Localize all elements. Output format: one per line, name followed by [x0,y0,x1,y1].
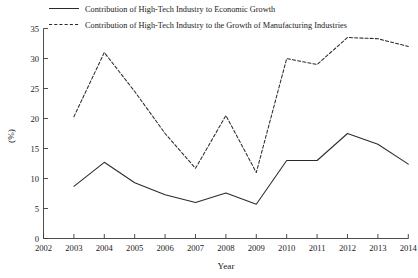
y-axis-tick-labels: 0 5 10 15 20 25 30 35 [30,24,39,244]
chart-figure: Contribution of High-Tech Industry to Ec… [0,0,418,278]
y-axis-title: (%) [6,129,16,143]
x-tick-label: 2010 [278,243,295,253]
x-tick-label: 2002 [35,243,52,253]
x-tick-label: 2008 [217,243,234,253]
chart-legend: Contribution of High-Tech Industry to Ec… [49,5,347,30]
y-tick-label: 0 [35,234,39,244]
x-tick-label: 2007 [187,243,205,253]
x-tick-label: 2011 [309,243,326,253]
x-tick-label: 2012 [339,243,356,253]
x-axis-title: Year [218,261,235,271]
legend-label-0: Contribution of High-Tech Industry to Ec… [85,5,276,14]
y-tick-label: 15 [30,144,39,154]
y-tick-label: 35 [30,24,39,34]
y-tick-label: 30 [30,54,39,64]
x-tick-label: 2013 [369,243,386,253]
legend-label-1: Contribution of High-Tech Industry to th… [85,21,347,30]
series-line-manufacturing-growth [74,38,408,173]
x-tick-label: 2006 [157,243,175,253]
y-tick-label: 10 [30,174,39,184]
x-tick-label: 2004 [96,243,114,253]
y-tick-label: 20 [30,114,39,124]
line-chart: Contribution of High-Tech Industry to Ec… [0,0,418,278]
y-axis-ticks [44,29,49,239]
x-tick-label: 2003 [65,243,82,253]
x-axis-ticks [44,234,409,239]
x-tick-label: 2014 [400,243,418,253]
x-axis-tick-labels: 2002 2003 2004 2005 2006 2007 2008 2009 … [35,243,418,253]
x-tick-label: 2009 [248,243,265,253]
y-tick-label: 5 [35,204,39,214]
y-tick-label: 25 [30,84,39,94]
x-tick-label: 2005 [126,243,143,253]
